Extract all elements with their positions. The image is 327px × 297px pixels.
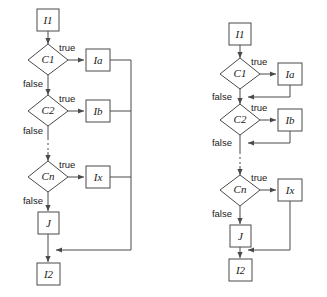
edge-label-cn-true: true — [59, 159, 75, 170]
flowchart-right: I1 C1 C2 Cn Ia Ib Ix J I2 true false tru… — [164, 0, 327, 297]
node-ix-label: Ix — [285, 184, 295, 196]
edge-ia-to-shared-bus — [56, 60, 131, 250]
node-end-label: I2 — [43, 268, 54, 280]
figure-canvas: I1 C1 C2 Cn Ia Ib Ix J I2 true false tru… — [0, 0, 327, 297]
edge-label-c2-true: true — [251, 102, 267, 113]
edge-label-c1-false: false — [212, 91, 232, 102]
node-ia-label: Ia — [92, 54, 103, 66]
edge-ia-rejoin-trunk — [248, 85, 290, 97]
edge-label-cn-false: false — [212, 208, 232, 219]
edge-label-c2-true: true — [59, 93, 75, 104]
node-ix-label: Ix — [93, 171, 103, 183]
node-ia-label: Ia — [284, 68, 295, 80]
edge-label-c1-true: true — [251, 56, 267, 67]
node-c2-label: C2 — [42, 104, 55, 116]
node-c2-label: C2 — [234, 113, 247, 125]
node-ib-label: Ib — [92, 105, 103, 117]
node-c1-label: C1 — [234, 67, 247, 79]
node-end-label: I2 — [235, 264, 246, 276]
edge-ix-rejoin-trunk — [248, 201, 290, 250]
edge-ib-rejoin-trunk — [248, 131, 290, 143]
edge-label-c1-false: false — [23, 78, 43, 89]
edge-label-cn-true: true — [251, 172, 267, 183]
edge-label-cn-false: false — [23, 195, 43, 206]
node-ib-label: Ib — [284, 114, 295, 126]
node-start-label: I1 — [234, 28, 244, 40]
edge-label-c1-true: true — [59, 42, 75, 53]
node-c1-label: C1 — [42, 53, 55, 65]
edge-label-c2-false: false — [23, 125, 43, 136]
node-cn-label: Cn — [234, 183, 247, 195]
node-cn-label: Cn — [42, 170, 55, 182]
edge-label-c2-false: false — [212, 137, 232, 148]
flowchart-left: I1 C1 C2 Cn Ia Ib Ix J I2 true false tru… — [0, 0, 164, 297]
node-start-label: I1 — [42, 14, 52, 26]
